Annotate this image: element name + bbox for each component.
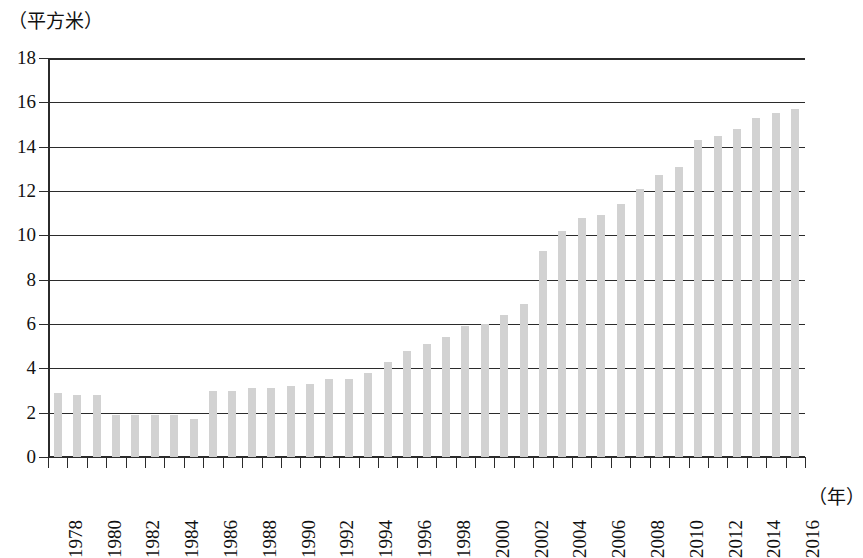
x-tick-label: 1988 bbox=[260, 520, 279, 558]
x-tick-label: 1992 bbox=[337, 520, 356, 558]
y-tick-label: 10 bbox=[17, 225, 36, 244]
bar bbox=[752, 118, 760, 457]
bar bbox=[558, 231, 566, 457]
x-tick-mark bbox=[106, 457, 107, 468]
x-tick-label: 2006 bbox=[609, 520, 628, 558]
x-tick-mark bbox=[164, 457, 165, 468]
x-tick-label: 1980 bbox=[105, 520, 124, 558]
x-tick-label: 2014 bbox=[764, 520, 783, 558]
x-tick-label: 1978 bbox=[66, 520, 85, 558]
x-tick-mark bbox=[669, 457, 670, 468]
y-tick-label: 14 bbox=[17, 137, 36, 156]
y-axis-unit-label: （平方米） bbox=[8, 6, 103, 33]
x-tick-label: 1996 bbox=[415, 520, 434, 558]
x-tick-mark bbox=[591, 457, 592, 468]
x-tick-mark bbox=[727, 457, 728, 468]
x-tick-mark bbox=[67, 457, 68, 468]
x-axis-tick-label-group: 1978198019821984198619881990199219941996… bbox=[48, 468, 805, 522]
x-tick-label: 2010 bbox=[687, 520, 706, 558]
x-tick-label: 1990 bbox=[299, 520, 318, 558]
x-tick-mark bbox=[397, 457, 398, 468]
x-tick-label: 2004 bbox=[570, 520, 589, 558]
y-tick-label: 0 bbox=[27, 447, 37, 466]
x-tick-mark bbox=[203, 457, 204, 468]
x-tick-mark bbox=[223, 457, 224, 468]
bar bbox=[578, 218, 586, 457]
bar bbox=[675, 167, 683, 457]
x-tick-mark bbox=[145, 457, 146, 468]
x-tick-label: 2008 bbox=[648, 520, 667, 558]
x-tick-mark bbox=[650, 457, 651, 468]
bar bbox=[694, 140, 702, 457]
bar bbox=[423, 344, 431, 457]
bar bbox=[655, 175, 663, 457]
bar bbox=[248, 388, 256, 457]
bar bbox=[190, 419, 198, 457]
y-tick-label: 2 bbox=[27, 403, 37, 422]
x-tick-mark bbox=[300, 457, 301, 468]
x-tick-mark bbox=[766, 457, 767, 468]
x-tick-mark bbox=[708, 457, 709, 468]
x-tick-mark bbox=[242, 457, 243, 468]
bar bbox=[209, 391, 217, 458]
x-tick-mark bbox=[281, 457, 282, 468]
bar bbox=[306, 384, 314, 457]
x-tick-label: 2012 bbox=[726, 520, 745, 558]
bar bbox=[93, 395, 101, 457]
bar bbox=[267, 388, 275, 457]
bar bbox=[364, 373, 372, 457]
bar bbox=[112, 415, 120, 457]
y-tick-label: 4 bbox=[27, 358, 37, 377]
bar bbox=[481, 324, 489, 457]
bar bbox=[714, 136, 722, 457]
x-tick-label: 1982 bbox=[143, 520, 162, 558]
bar bbox=[54, 393, 62, 457]
x-tick-mark bbox=[689, 457, 690, 468]
x-tick-mark bbox=[805, 457, 806, 468]
bar bbox=[617, 204, 625, 457]
x-axis-line bbox=[48, 457, 805, 458]
x-tick-mark bbox=[417, 457, 418, 468]
x-tick-mark bbox=[514, 457, 515, 468]
x-tick-mark bbox=[475, 457, 476, 468]
bar bbox=[287, 386, 295, 457]
bar bbox=[520, 304, 528, 457]
bar bbox=[131, 415, 139, 457]
x-tick-mark bbox=[747, 457, 748, 468]
x-tick-mark bbox=[87, 457, 88, 468]
x-tick-mark bbox=[436, 457, 437, 468]
bar bbox=[500, 315, 508, 457]
y-tick-label: 8 bbox=[27, 270, 37, 289]
bar bbox=[539, 251, 547, 457]
y-axis-tick-label-group: 024681012141618 bbox=[0, 58, 36, 457]
x-tick-mark bbox=[320, 457, 321, 468]
x-tick-mark bbox=[359, 457, 360, 468]
bar bbox=[228, 391, 236, 458]
x-tick-mark bbox=[611, 457, 612, 468]
x-tick-label: 1994 bbox=[376, 520, 395, 558]
y-tick-label: 6 bbox=[27, 314, 37, 333]
x-tick-mark bbox=[262, 457, 263, 468]
x-tick-mark bbox=[630, 457, 631, 468]
bar bbox=[151, 415, 159, 457]
bar bbox=[73, 395, 81, 457]
y-tick-label: 16 bbox=[17, 92, 36, 111]
x-tick-label: 1998 bbox=[454, 520, 473, 558]
x-tick-mark bbox=[378, 457, 379, 468]
x-tick-mark bbox=[184, 457, 185, 468]
bar bbox=[597, 215, 605, 457]
y-tick-label: 12 bbox=[17, 181, 36, 200]
bar-series bbox=[48, 58, 805, 457]
x-tick-label: 2016 bbox=[803, 520, 822, 558]
x-tick-mark bbox=[553, 457, 554, 468]
x-tick-mark bbox=[533, 457, 534, 468]
bar bbox=[345, 379, 353, 457]
x-tick-mark bbox=[126, 457, 127, 468]
x-axis-unit-label: （年） bbox=[808, 482, 863, 509]
bar bbox=[170, 415, 178, 457]
bar bbox=[791, 109, 799, 457]
x-tick-label: 2000 bbox=[493, 520, 512, 558]
x-tick-label: 1986 bbox=[221, 520, 240, 558]
bar bbox=[772, 113, 780, 457]
